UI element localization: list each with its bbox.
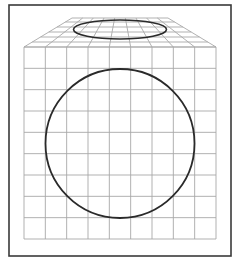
- top-face-ellipse: [74, 20, 167, 39]
- top-face-grid: [24, 18, 216, 47]
- front-face-grid: [24, 47, 216, 239]
- top-grid-converging-line: [24, 18, 72, 47]
- front-face-circle: [46, 69, 195, 218]
- figure-canvas: [0, 0, 241, 267]
- top-grid-converging-line: [168, 18, 216, 47]
- perspective-grid-figure: [0, 0, 241, 267]
